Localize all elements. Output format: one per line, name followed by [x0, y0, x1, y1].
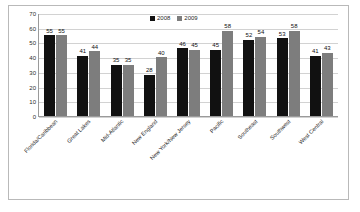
bar-value-label: 45 [212, 42, 219, 48]
bar-value-label: 53 [279, 31, 286, 37]
bar-group: 5555 [39, 14, 72, 116]
bar-group: 3535 [105, 14, 138, 116]
bar-column: 58 [222, 14, 233, 116]
bar [144, 75, 155, 116]
bar-column: 35 [123, 14, 134, 116]
x-axis-label-slot: New York/New Jersey [171, 117, 204, 197]
x-axis-tick-label: Pacific [210, 119, 226, 135]
bar-column: 28 [144, 14, 155, 116]
legend-label: 2009 [184, 15, 197, 21]
legend-item: 2009 [177, 15, 197, 21]
bar-value-label: 52 [246, 32, 253, 38]
x-axis-label-slot: Great Lakes [71, 117, 104, 197]
bar-value-label: 28 [146, 67, 153, 73]
bar-groups: 555541443535284046454558525453584143 [39, 14, 338, 116]
bar-column: 52 [243, 14, 254, 116]
bar-group: 4558 [205, 14, 238, 116]
x-axis-label-slot: West Central [305, 117, 338, 197]
bar [89, 51, 100, 116]
y-axis-tick-label: 20 [29, 85, 36, 91]
bar [189, 50, 200, 116]
bar-column: 55 [56, 14, 67, 116]
bar-column: 44 [89, 14, 100, 116]
legend-label: 2008 [157, 15, 170, 21]
chart-legend: 20082009 [150, 15, 198, 21]
bar-value-label: 55 [58, 28, 65, 34]
bar-value-label: 46 [179, 41, 186, 47]
bar [322, 53, 333, 116]
x-axis-tick-label: Mid-Atlantic [101, 119, 126, 144]
bar-column: 54 [255, 14, 266, 116]
bar-value-label: 41 [79, 48, 86, 54]
bar-column: 43 [322, 14, 333, 116]
bar [156, 57, 167, 116]
bar-value-label: 44 [91, 44, 98, 50]
bar-column: 46 [177, 14, 188, 116]
y-axis-tick-label: 60 [29, 26, 36, 32]
bar-value-label: 45 [191, 42, 198, 48]
bar [77, 56, 88, 116]
x-axis-labels: Florida/CaribbeanGreat LakesMid-Atlantic… [38, 117, 338, 197]
bar [255, 37, 266, 116]
bar-value-label: 35 [125, 57, 132, 63]
bar-value-label: 58 [224, 23, 231, 29]
bar-column: 41 [310, 14, 321, 116]
x-axis-label-slot: Mid-Atlantic [105, 117, 138, 197]
bar [44, 35, 55, 116]
legend-item: 2008 [150, 15, 170, 21]
bar-group: 5254 [238, 14, 271, 116]
bar-value-label: 58 [291, 23, 298, 29]
bar-group: 4645 [172, 14, 205, 116]
bar-value-label: 43 [324, 45, 331, 51]
bar-column: 53 [277, 14, 288, 116]
y-axis-tick-label: 30 [29, 70, 36, 76]
bar-column: 41 [77, 14, 88, 116]
bar-column: 58 [289, 14, 300, 116]
y-axis-tick-label: 70 [29, 11, 36, 17]
bar-value-label: 41 [312, 48, 319, 54]
chart-figure: 20082009 010203040506070 555541443535284… [0, 0, 360, 212]
bar [222, 31, 233, 116]
bar-group: 2840 [139, 14, 172, 116]
bar [177, 48, 188, 116]
bar-value-label: 55 [46, 28, 53, 34]
y-axis-tick-label: 40 [29, 55, 36, 61]
bar [243, 40, 254, 117]
bar [111, 65, 122, 117]
bar [56, 35, 67, 116]
bar-group: 5358 [272, 14, 305, 116]
bar-value-label: 40 [158, 50, 165, 56]
x-axis-tick-label: Southwest [269, 119, 291, 141]
plot-area: 010203040506070 555541443535284046454558… [38, 14, 338, 117]
bar-group: 4144 [72, 14, 105, 116]
bar-column: 55 [44, 14, 55, 116]
x-axis-label-slot: Florida/Caribbean [38, 117, 71, 197]
legend-swatch-icon [177, 16, 182, 21]
bar-value-label: 35 [113, 57, 120, 63]
bar [277, 38, 288, 116]
bar-column: 45 [210, 14, 221, 116]
x-axis-label-slot: Southwest [271, 117, 304, 197]
bar-column: 40 [156, 14, 167, 116]
bar-group: 4143 [305, 14, 338, 116]
legend-swatch-icon [150, 16, 155, 21]
y-axis-tick-label: 50 [29, 40, 36, 46]
y-axis-tick-label: 0 [33, 114, 36, 120]
bar [289, 31, 300, 116]
bar-value-label: 54 [258, 29, 265, 35]
x-axis-tick-label: Southeast [237, 119, 259, 141]
bar [310, 56, 321, 116]
bar [210, 50, 221, 116]
x-axis-label-slot: Southeast [238, 117, 271, 197]
bar-column: 35 [111, 14, 122, 116]
bar [123, 65, 134, 117]
y-axis-tick-label: 10 [29, 99, 36, 105]
bar-column: 45 [189, 14, 200, 116]
x-axis-label-slot: Pacific [205, 117, 238, 197]
